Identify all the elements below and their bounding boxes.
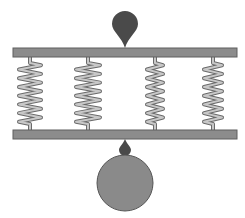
spring-4 — [204, 57, 222, 130]
spring-1 — [19, 57, 41, 130]
spring-3 — [147, 57, 163, 130]
spring-2 — [76, 57, 100, 130]
spring-system-diagram — [0, 0, 245, 218]
diagram-canvas — [0, 0, 245, 218]
top-plate — [13, 48, 237, 57]
hanger-drop-icon — [119, 139, 131, 156]
bottom-plate — [13, 130, 237, 139]
springs-group — [19, 57, 222, 130]
hanging-ball — [97, 155, 153, 211]
teardrop-marker-icon — [112, 11, 138, 48]
